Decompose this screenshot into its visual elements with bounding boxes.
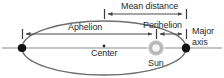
center-point	[103, 45, 106, 48]
label-sun: Sun	[148, 59, 164, 68]
orbit-graphic	[0, 0, 224, 78]
right-vertex-point	[182, 43, 190, 52]
sun-disc-icon	[151, 43, 160, 52]
label-major-axis-line2: axis	[192, 38, 208, 47]
label-mean-distance: Mean distance	[121, 2, 178, 11]
label-center: Center	[91, 49, 117, 58]
label-aphelion: Aphelion	[68, 23, 102, 32]
label-perihelion: Perihelion	[143, 21, 182, 30]
left-vertex-point	[18, 44, 26, 52]
orbit-diagram: Mean distance Aphelion Perihelion Center…	[0, 0, 224, 78]
label-major-axis-line1: Major	[192, 27, 214, 36]
